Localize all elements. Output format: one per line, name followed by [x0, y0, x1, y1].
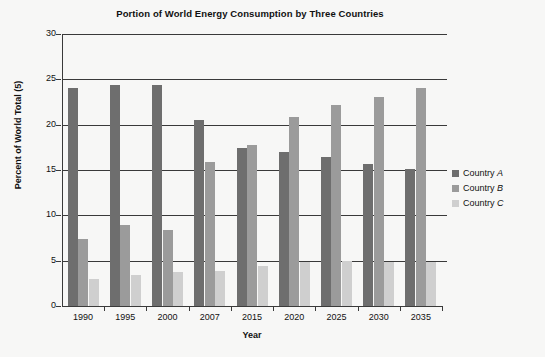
x-axis-tick-label: 1995 — [102, 312, 148, 322]
x-axis-tick — [315, 306, 316, 311]
x-axis-tick-label: 2007 — [187, 312, 233, 322]
y-axis-tick-right — [442, 170, 447, 171]
legend-item[interactable]: Country C — [452, 196, 504, 210]
bar-group — [321, 34, 352, 306]
legend-swatch-icon — [452, 170, 459, 177]
x-axis-tick — [400, 306, 401, 311]
bar[interactable] — [258, 266, 268, 306]
x-axis-label: Year — [62, 330, 442, 340]
bar[interactable] — [110, 85, 120, 306]
bar[interactable] — [173, 272, 183, 306]
bar[interactable] — [289, 117, 299, 306]
bar-group — [152, 34, 183, 306]
bar[interactable] — [89, 279, 99, 306]
bar[interactable] — [416, 88, 426, 307]
bar[interactable] — [300, 262, 310, 306]
legend-item-label: Country A — [463, 168, 503, 178]
chart-title: Portion of World Energy Consumption by T… — [0, 8, 500, 19]
x-axis-tick-label: 2035 — [398, 312, 444, 322]
y-axis-tick-label: 15 — [34, 164, 56, 174]
y-axis-tick — [56, 261, 61, 262]
legend-item[interactable]: Country B — [452, 181, 504, 195]
bar-group — [279, 34, 310, 306]
legend-swatch-icon — [452, 200, 459, 207]
x-axis-tick — [146, 306, 147, 311]
y-axis-tick — [56, 125, 61, 126]
bar[interactable] — [279, 152, 289, 306]
y-axis-tick — [56, 34, 61, 35]
y-axis-tick-label: 30 — [34, 28, 56, 38]
x-axis-tick-label: 2000 — [145, 312, 191, 322]
bar[interactable] — [68, 88, 78, 307]
y-axis-tick-right — [442, 215, 447, 216]
x-axis-tick — [189, 306, 190, 311]
y-axis-tick-label: 25 — [34, 73, 56, 83]
x-axis-tick — [104, 306, 105, 311]
bar[interactable] — [384, 262, 394, 306]
bar-group — [237, 34, 268, 306]
legend-item-label: Country B — [463, 183, 503, 193]
bar[interactable] — [78, 239, 88, 306]
bar-group — [68, 34, 99, 306]
y-axis-tick-label: 10 — [34, 209, 56, 219]
bar[interactable] — [215, 271, 225, 306]
x-axis-tick — [273, 306, 274, 311]
x-axis-tick — [358, 306, 359, 311]
chart-legend: Country ACountry BCountry C — [452, 166, 504, 211]
bar[interactable] — [205, 162, 215, 306]
x-axis-tick-label: 2020 — [271, 312, 317, 322]
bar[interactable] — [163, 230, 173, 306]
y-axis-tick-label: 0 — [34, 300, 56, 310]
bar[interactable] — [247, 145, 257, 306]
bar[interactable] — [120, 225, 130, 306]
y-axis-tick — [56, 79, 61, 80]
y-axis-tick — [56, 306, 61, 307]
bar-group — [405, 34, 436, 306]
x-axis-tick-label: 2015 — [229, 312, 275, 322]
x-axis-tick — [442, 306, 443, 311]
y-axis-tick-right — [442, 79, 447, 80]
bar[interactable] — [331, 105, 341, 306]
legend-item[interactable]: Country A — [452, 166, 504, 180]
bar[interactable] — [426, 262, 436, 306]
y-axis-tick-labels: 051015202530 — [30, 34, 56, 306]
bar-group — [110, 34, 141, 306]
y-axis-label: Percent of World Total (5) — [13, 45, 23, 225]
bar[interactable] — [194, 120, 204, 306]
y-axis-tick — [56, 215, 61, 216]
y-axis-tick-label: 20 — [34, 119, 56, 129]
bar[interactable] — [152, 85, 162, 306]
bar[interactable] — [342, 261, 352, 306]
bar-group — [194, 34, 225, 306]
bar[interactable] — [363, 164, 373, 306]
bar[interactable] — [131, 275, 141, 306]
bar[interactable] — [405, 169, 415, 306]
chart-figure: Portion of World Energy Consumption by T… — [0, 0, 545, 357]
y-axis-tick-right — [442, 125, 447, 126]
bar-group — [363, 34, 394, 306]
x-axis-line — [62, 306, 443, 307]
plot-area — [62, 34, 442, 306]
y-axis-tick — [56, 170, 61, 171]
y-axis-tick-right — [442, 261, 447, 262]
bar[interactable] — [237, 148, 247, 306]
bar[interactable] — [374, 97, 384, 306]
x-axis-tick — [231, 306, 232, 311]
y-axis-tick-label: 5 — [34, 255, 56, 265]
legend-item-label: Country C — [463, 198, 504, 208]
x-axis-tick-label: 2030 — [356, 312, 402, 322]
y-axis-tick-right — [442, 34, 447, 35]
legend-swatch-icon — [452, 185, 459, 192]
x-axis-tick-label: 2025 — [313, 312, 359, 322]
x-axis-tick-label: 1990 — [60, 312, 106, 322]
bar[interactable] — [321, 157, 331, 306]
